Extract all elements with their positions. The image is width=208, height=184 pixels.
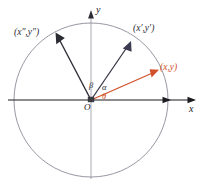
vector-rotated-twice bbox=[59, 40, 91, 101]
figure-canvas: (x″,y″) (x′,y′) (x,y) y x O β α θ bbox=[0, 0, 208, 184]
vector-rotated-once-arrowhead bbox=[123, 41, 132, 52]
x-axis-label: x bbox=[189, 104, 193, 114]
label-original-point: (x,y) bbox=[160, 63, 177, 73]
x-axis-inner-arrowhead bbox=[163, 97, 172, 103]
angle-label-theta: θ bbox=[102, 92, 106, 101]
label-rotated-twice-point: (x″,y″) bbox=[14, 28, 39, 38]
y-axis-label: y bbox=[96, 5, 100, 15]
vector-original-arrowhead bbox=[150, 69, 159, 77]
origin-label: O bbox=[84, 103, 91, 112]
angle-label-beta: β bbox=[89, 81, 93, 90]
y-axis-arrowhead bbox=[88, 10, 94, 19]
label-rotated-once-point: (x′,y′) bbox=[133, 24, 154, 34]
